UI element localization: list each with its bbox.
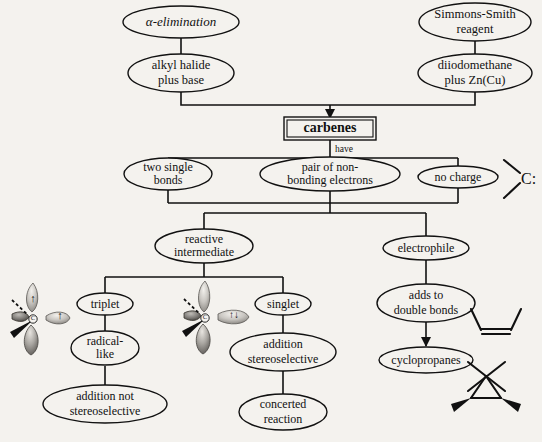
node-concerted-reaction[interactable]: concerted reaction [239, 394, 327, 430]
carbenes-label: carbenes [304, 120, 357, 135]
node-adds-to-double-bonds[interactable]: adds to double bonds [377, 284, 475, 322]
structure-cyclopropane [451, 362, 521, 412]
reactive-intermediate-line2: intermediate [174, 245, 234, 259]
simmons-smith-line2: reagent [457, 22, 494, 36]
radical-like-line1: radical- [87, 334, 124, 348]
triplet-label: triplet [91, 297, 120, 311]
addition-not-stereoselective-line2: stereoselective [70, 404, 141, 418]
node-two-single-bonds[interactable]: two single bonds [124, 158, 212, 190]
diiodomethane-line2: plus Zn(Cu) [445, 73, 506, 87]
alkyl-halide-line2: plus base [158, 73, 205, 87]
no-charge-label: no charge [435, 170, 482, 184]
addition-stereoselective-line1: addition [263, 337, 302, 351]
triplet-spin-up-left: ↑ [30, 292, 36, 304]
node-reactive-intermediate[interactable]: reactive intermediate [155, 229, 253, 263]
alkyl-halide-line1: alkyl halide [152, 58, 211, 72]
node-singlet[interactable]: singlet [255, 293, 311, 315]
two-single-bonds-line1: two single [143, 160, 193, 174]
node-pair-of-nonbonding-electrons[interactable]: pair of non- bonding electrons [260, 157, 400, 191]
node-no-charge[interactable]: no charge [418, 166, 498, 188]
node-carbenes[interactable]: carbenes [284, 117, 376, 140]
node-cyclopropanes[interactable]: cyclopropanes [379, 347, 473, 373]
node-triplet[interactable]: triplet [77, 293, 133, 315]
node-addition-stereoselective[interactable]: addition stereoselective [230, 333, 336, 371]
node-diiodomethane-plus-zncu[interactable]: diiodomethane plus Zn(Cu) [418, 54, 532, 92]
concerted-reaction-line2: reaction [264, 412, 303, 426]
nonbonding-pair-line2: bonding electrons [287, 173, 373, 187]
singlet-atom-c: C [203, 313, 207, 320]
carbenes-concept-map: α-elimination alkyl halide plus base Sim… [0, 0, 542, 442]
node-alkyl-halide-plus-base[interactable]: alkyl halide plus base [128, 54, 234, 92]
concerted-reaction-line1: concerted [260, 397, 307, 411]
edge-label-have: have [335, 144, 353, 154]
structure-alkene [471, 309, 521, 334]
adds-to-double-bonds-line2: double bonds [394, 303, 459, 317]
reactive-intermediate-line1: reactive [185, 232, 223, 246]
triplet-atom-c: C [31, 314, 35, 321]
node-radical-like[interactable]: radical- like [71, 331, 139, 365]
diiodomethane-line1: diiodomethane [438, 58, 513, 72]
cyclopropanes-label: cyclopropanes [391, 353, 461, 367]
singlet-label: singlet [267, 297, 300, 311]
two-single-bonds-line2: bonds [154, 173, 183, 187]
node-alpha-elimination[interactable]: α-elimination [123, 6, 239, 38]
node-simmons-smith-reagent[interactable]: Simmons-Smith reagent [419, 3, 531, 41]
carbene-c-label: C: [521, 170, 536, 187]
electrophile-label: electrophile [398, 241, 455, 255]
simmons-smith-line1: Simmons-Smith [434, 7, 516, 21]
structure-triplet-carbene: ↑ ↑ C [10, 283, 70, 355]
radical-like-line2: like [96, 347, 114, 361]
singlet-spin-pair: ↑↓ [229, 309, 239, 320]
node-electrophile[interactable]: electrophile [383, 236, 469, 260]
node-addition-not-stereoselective[interactable]: addition not stereoselective [43, 385, 167, 423]
adds-to-double-bonds-line1: adds to [409, 288, 443, 302]
nonbonding-pair-line1: pair of non- [302, 160, 359, 174]
alpha-elimination-label: α-elimination [146, 14, 216, 29]
addition-not-stereoselective-line1: addition not [76, 389, 134, 403]
addition-stereoselective-line2: stereoselective [248, 352, 319, 366]
structure-carbene-generic: C: [504, 160, 536, 198]
triplet-spin-up-right: ↑ [57, 309, 63, 321]
